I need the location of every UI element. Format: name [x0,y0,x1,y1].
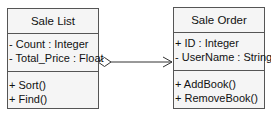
attribute: - Count : Integer [8,37,98,51]
operations-compartment: + Sort() + Find() [8,72,98,106]
operation: + Find() [8,92,98,106]
attribute: - UserName : String [174,50,264,64]
operation: + AddBook() [174,77,264,91]
class-name: Sale List [8,9,98,34]
attributes-compartment: - Count : Integer - Total_Price : Float [8,34,98,72]
class-sale-list[interactable]: Sale List - Count : Integer - Total_Pric… [7,8,99,109]
operations-compartment: + AddBook() + RemoveBook() [174,71,264,105]
class-sale-order[interactable]: Sale Order + ID : Integer - UserName : S… [173,7,265,109]
operation: + RemoveBook() [174,91,264,105]
attributes-compartment: + ID : Integer - UserName : String [174,33,264,71]
class-name: Sale Order [174,8,264,33]
attribute: + ID : Integer [174,36,264,50]
operation: + Sort() [8,78,98,92]
attribute: - Total_Price : Float [8,51,98,65]
